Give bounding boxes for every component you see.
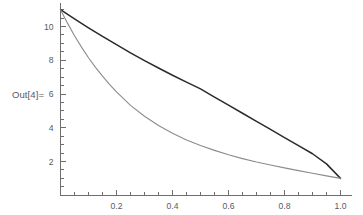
plot-output-cell: Out[4]= 0.20.40.60.81.0 246810	[0, 0, 363, 215]
y-axis-major-ticks	[61, 27, 66, 162]
y-tick-label: 4	[49, 123, 54, 133]
x-tick-label: 0.4	[167, 201, 179, 211]
axes-group	[60, 3, 352, 196]
x-tick-label: 1.0	[335, 201, 347, 211]
x-tick-label: 0.8	[279, 201, 291, 211]
plot-canvas: 0.20.40.60.81.0 246810	[0, 0, 363, 215]
x-axis-major-ticks	[117, 190, 341, 195]
y-tick-label: 2	[49, 157, 54, 167]
curve-upper-curve	[61, 10, 341, 179]
data-series-group	[61, 10, 341, 179]
y-tick-label: 10	[44, 22, 54, 32]
y-axis-tick-labels: 246810	[44, 22, 54, 167]
x-tick-label: 0.6	[223, 201, 235, 211]
x-tick-label: 0.2	[111, 201, 123, 211]
y-tick-label: 6	[49, 89, 54, 99]
y-tick-label: 8	[49, 55, 54, 65]
x-axis-tick-labels: 0.20.40.60.81.0	[111, 201, 347, 211]
curve-lower-curve	[61, 10, 341, 179]
